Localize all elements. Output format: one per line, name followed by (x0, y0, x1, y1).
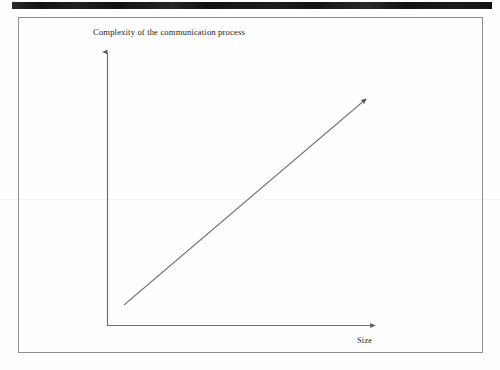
trend-arrow (124, 99, 366, 305)
figure-page: Complexity of the communication process … (0, 0, 500, 370)
x-axis-label: Size (357, 335, 372, 347)
chart-plot-area (0, 0, 500, 370)
